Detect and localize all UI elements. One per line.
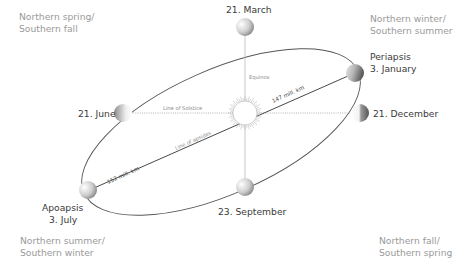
season-top-left: Northern spring/ Southern fall xyxy=(19,11,97,34)
sun-ray xyxy=(255,104,257,106)
sun-ray xyxy=(257,116,262,117)
label-apoapsis-title: Apoapsis xyxy=(42,202,84,213)
sun-ray xyxy=(252,101,254,103)
label-periapsis-title: Periapsis xyxy=(370,51,411,62)
label-september: 23. September xyxy=(218,206,287,217)
orbit-diagram: Northern spring/ Southern fall Northern … xyxy=(0,0,466,271)
label-apoapsis-date: 3. July xyxy=(49,214,78,225)
sun-ray xyxy=(229,116,234,117)
label-march: 21. March xyxy=(226,4,272,15)
sun-ray xyxy=(250,99,251,102)
sun-ray xyxy=(241,97,242,102)
season-bottom-right: Northern fall/ Southern spring xyxy=(379,235,452,258)
sun-ray xyxy=(248,125,249,130)
sun-disc xyxy=(233,101,257,125)
planet-march xyxy=(236,18,254,36)
planet-september xyxy=(236,178,254,196)
label-solstice: Line of Solstice xyxy=(163,105,202,111)
label-perihelion-distance: 147 mill. km xyxy=(271,84,305,104)
season-bottom-left: Northern summer/ Southern winter xyxy=(20,235,108,258)
sun-ray xyxy=(255,120,257,122)
sun-ray xyxy=(239,124,240,127)
label-december: 21. December xyxy=(373,108,438,119)
sun-ray xyxy=(257,109,262,110)
sun-ray xyxy=(231,118,234,119)
label-aphelion-distance: 152 mill. km xyxy=(106,165,140,185)
sun-ray xyxy=(250,124,251,127)
planet-periapsis xyxy=(346,64,364,82)
sun-icon xyxy=(228,96,262,130)
sun-ray xyxy=(233,104,235,106)
sun-ray xyxy=(252,123,254,125)
sun-ray xyxy=(231,107,234,108)
sun-ray xyxy=(256,107,259,108)
planet-apoapsis xyxy=(79,181,97,199)
season-top-right: Northern winter/ Southern summer xyxy=(370,13,453,36)
label-equinox: Equinox xyxy=(249,74,270,81)
sun-ray xyxy=(229,109,234,110)
sun-ray xyxy=(239,99,240,102)
planet-june xyxy=(114,104,132,122)
sun-ray xyxy=(236,101,238,103)
label-apsides: Line of apsides xyxy=(174,129,213,151)
label-june: 21. June xyxy=(78,108,116,119)
planet-december xyxy=(351,104,369,122)
label-periapsis-date: 3. January xyxy=(370,63,417,74)
sun-ray xyxy=(241,125,242,130)
sun-ray xyxy=(233,120,235,122)
sun-ray xyxy=(248,97,249,102)
sun-ray xyxy=(256,118,259,119)
